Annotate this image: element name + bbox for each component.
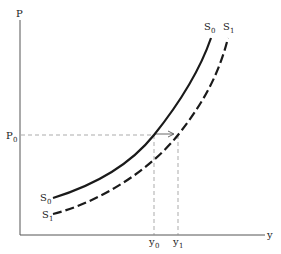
svg-text:P: P — [6, 130, 13, 141]
y-axis-label: P — [16, 8, 23, 19]
svg-text:y: y — [148, 236, 155, 247]
s1-top-label: S 1 — [223, 21, 234, 35]
svg-text:0: 0 — [211, 27, 215, 35]
svg-text:S: S — [223, 21, 230, 32]
svg-text:S: S — [42, 209, 49, 220]
s1-bottom-label: S 1 — [42, 209, 53, 223]
svg-text:0: 0 — [155, 242, 159, 250]
y0-label: y 0 — [148, 236, 159, 250]
x-axis-label: y — [266, 229, 273, 240]
svg-text:S: S — [40, 192, 47, 203]
supply-shift-diagram: P y P 0 S 0 S 1 S 0 S 1 y 0 y 1 — [0, 0, 281, 254]
svg-text:1: 1 — [230, 27, 234, 35]
svg-text:S: S — [204, 21, 211, 32]
s0-bottom-label: S 0 — [40, 192, 51, 206]
supply-curve-s0 — [53, 38, 211, 198]
s0-top-label: S 0 — [204, 21, 215, 35]
svg-text:1: 1 — [49, 215, 53, 223]
svg-text:0: 0 — [13, 136, 17, 144]
svg-text:0: 0 — [47, 198, 51, 206]
svg-text:1: 1 — [179, 242, 183, 250]
svg-text:y: y — [172, 236, 179, 247]
y1-label: y 1 — [172, 236, 183, 250]
p0-label: P 0 — [6, 130, 17, 144]
